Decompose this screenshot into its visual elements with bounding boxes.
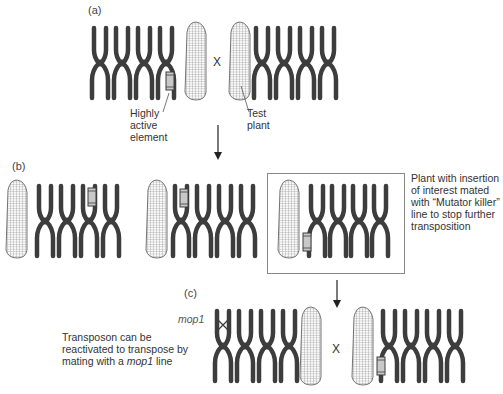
cross-symbol: X xyxy=(213,55,221,69)
arrow-down-icon xyxy=(333,280,341,308)
chromosome xyxy=(320,28,336,98)
chromosome xyxy=(239,186,255,256)
panel-a-right-chromosomes xyxy=(254,28,336,98)
panel-c-label: (c) xyxy=(184,287,197,299)
corn-ear-icon xyxy=(185,22,206,100)
chromosome-mop1 xyxy=(215,311,231,381)
panel-b-description: Plant with insertion of interest mated w… xyxy=(411,172,500,232)
chromosome xyxy=(447,311,463,381)
transposon-element xyxy=(377,357,385,375)
arrow-down-icon xyxy=(214,125,222,160)
chromosome xyxy=(59,186,75,256)
transposon-element xyxy=(166,72,174,90)
selected-plant-box xyxy=(267,173,405,274)
corn-ear-icon xyxy=(146,180,167,258)
transposon-element xyxy=(180,189,188,207)
highly-active-element-label: Highly active element xyxy=(130,107,167,143)
chromosome xyxy=(276,28,292,98)
chromosome xyxy=(259,311,275,381)
corn-ear-icon xyxy=(352,307,373,385)
chromosome xyxy=(217,186,233,256)
panel-a-left-chromosomes xyxy=(92,28,174,98)
chromosome xyxy=(254,28,270,98)
panel-b-label: (b) xyxy=(12,160,25,172)
chromosome xyxy=(195,186,211,256)
panel-a-label: (a) xyxy=(88,4,101,16)
corn-ear-icon xyxy=(229,22,250,100)
chromosome xyxy=(103,186,119,256)
chromosome xyxy=(298,28,314,98)
corn-ear-icon xyxy=(300,307,321,385)
corn-ear-icon xyxy=(6,180,27,258)
panel-c-description: Transposon can be reactivated to transpo… xyxy=(62,331,188,367)
chromosome xyxy=(136,28,152,98)
test-plant-label: Test plant xyxy=(247,107,270,131)
chromosome xyxy=(114,28,130,98)
chromosome xyxy=(92,28,108,98)
cross-symbol: X xyxy=(332,342,340,356)
chromosome xyxy=(425,311,441,381)
mop1-label: mop1 xyxy=(178,313,204,325)
transposon-element xyxy=(88,188,96,206)
chromosome xyxy=(281,311,297,381)
chromosome xyxy=(403,311,419,381)
chromosome xyxy=(37,186,53,256)
mop1-mutation-mark xyxy=(218,320,228,330)
chromosome xyxy=(237,311,253,381)
